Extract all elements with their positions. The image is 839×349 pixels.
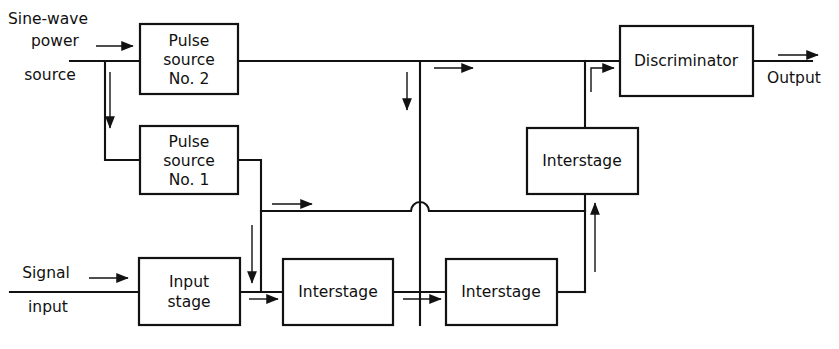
label-signal-line2: input xyxy=(28,298,68,316)
label-signal-line1: Signal xyxy=(22,264,70,282)
wire-pulse1-output-down xyxy=(238,160,261,292)
label-pulse-source-1-line3: No. 1 xyxy=(169,171,210,189)
label-pulse-source-2-line3: No. 2 xyxy=(169,70,210,88)
label-sine-wave-line2: power xyxy=(31,32,80,50)
label-sine-wave-line3: source xyxy=(24,66,75,84)
label-pulse-source-2-line2: source xyxy=(163,51,214,69)
label-interstage-bottom-2: Interstage xyxy=(461,283,540,301)
block-input-stage[interactable] xyxy=(139,258,240,325)
block-diagram: Pulse source No. 2 Pulse source No. 1 In… xyxy=(0,0,839,349)
label-pulse-source-1-line2: source xyxy=(163,152,214,170)
label-interstage-upper-right: Interstage xyxy=(542,152,621,170)
label-sine-wave-line1: Sine-wave xyxy=(8,10,88,28)
diagram-canvas: Pulse source No. 2 Pulse source No. 1 In… xyxy=(0,0,839,349)
label-discriminator: Discriminator xyxy=(634,52,739,70)
wire-layer xyxy=(10,61,812,325)
label-pulse-source-2-line1: Pulse xyxy=(169,32,210,50)
arrow-into-discriminator xyxy=(591,68,614,92)
label-pulse-source-1-line1: Pulse xyxy=(169,133,210,151)
label-interstage-bottom-1: Interstage xyxy=(298,283,377,301)
label-output: Output xyxy=(767,69,821,87)
label-input-stage-line2: stage xyxy=(167,293,210,311)
label-input-stage-line1: Input xyxy=(169,273,209,291)
